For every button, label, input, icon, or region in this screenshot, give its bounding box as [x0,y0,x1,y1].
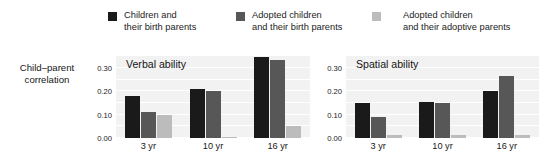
bars [346,55,410,138]
legend-swatch-adopted-adoptive-parents [372,12,381,21]
y-axis-title: Child–parent correlation [6,62,88,86]
bar-group [116,55,181,138]
bar [515,135,530,139]
bar [206,91,221,138]
bar [190,89,205,138]
bar-groups-spatial [346,55,539,138]
x-tick-label: 10 yr [181,141,246,151]
bar [387,135,402,139]
y-tick-label: 0.00 [97,134,112,143]
chart-legend: Children and their birth parents Adopted… [0,6,543,42]
bar [286,126,301,138]
panel-verbal-ability: 0.000.100.200.30 Verbal ability 3 yr10 y… [88,52,314,166]
y-tick-label: 0.30 [327,63,342,72]
chart-figure: Children and their birth parents Adopted… [0,0,543,166]
legend-entry-adopted-birth-parents: Adopted children and their birth parents [236,10,342,33]
bar [270,60,285,138]
bar-group [410,55,474,138]
bar [371,117,386,138]
x-tick-label: 10 yr [410,141,474,151]
x-tick-labels-spatial: 3 yr10 yr16 yr [346,141,539,151]
plot-area-verbal: Verbal ability [116,55,310,138]
x-tick-label: 3 yr [346,141,410,151]
x-tick-label: 3 yr [116,141,181,151]
bar [222,137,237,138]
bar-group [245,55,310,138]
x-tick-labels-verbal: 3 yr10 yr16 yr [116,141,310,151]
plot-area-spatial: Spatial ability [346,55,539,138]
bar [419,102,434,138]
bars [475,55,539,138]
legend-entry-adopted-adoptive-parents: Adopted children and their adoptive pare… [372,10,511,33]
bar [157,115,172,138]
bar-group [181,55,246,138]
bar [499,76,514,138]
legend-swatch-adopted-birth-parents [236,12,245,21]
bars [116,55,181,138]
y-tick-label: 0.10 [327,110,342,119]
bar [435,103,450,138]
y-tick-labels-spatial: 0.000.100.200.30 [318,52,344,138]
bar [141,112,156,138]
bars [181,55,246,138]
y-tick-label: 0.00 [327,134,342,143]
bar-groups-verbal [116,55,310,138]
legend-label-adopted-birth-parents: Adopted children and their birth parents [245,10,342,33]
y-tick-label: 0.10 [97,110,112,119]
bar [483,91,498,138]
bars [410,55,474,138]
bar-group [475,55,539,138]
bar [355,103,370,138]
x-tick-label: 16 yr [475,141,539,151]
y-tick-labels-verbal: 0.000.100.200.30 [88,52,114,138]
legend-label-adopted-adoptive-parents: Adopted children and their adoptive pare… [381,10,511,33]
panel-spatial-ability: 0.000.100.200.30 Spatial ability 3 yr10 … [318,52,543,166]
bars [245,55,310,138]
legend-entry-birth-children: Children and their birth parents [108,10,196,33]
legend-label-birth-children: Children and their birth parents [117,10,196,33]
y-tick-label: 0.20 [97,87,112,96]
bar-group [346,55,410,138]
x-tick-label: 16 yr [245,141,310,151]
bar [125,96,140,138]
bar [451,135,466,139]
bar [254,57,269,138]
legend-swatch-birth-children [108,12,117,21]
y-tick-label: 0.20 [327,87,342,96]
y-tick-label: 0.30 [97,63,112,72]
